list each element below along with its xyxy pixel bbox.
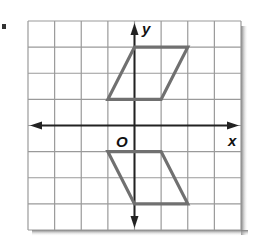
origin-label: O bbox=[116, 133, 128, 150]
graph-shadow-right bbox=[241, 26, 248, 235]
graph-shadow-bottom bbox=[32, 230, 248, 236]
x-axis-label: x bbox=[227, 132, 237, 149]
coordinate-graph: y x O bbox=[0, 0, 253, 247]
y-axis-label: y bbox=[141, 20, 151, 37]
